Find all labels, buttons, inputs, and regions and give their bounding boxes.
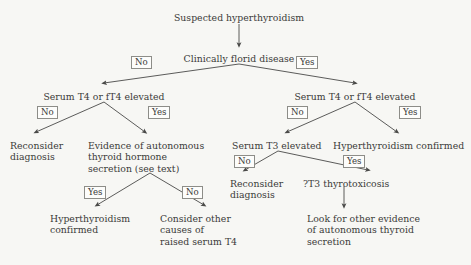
branch-label-t3-yes: Yes	[343, 155, 365, 168]
node-t3-thyrotoxicosis: ?T3 thyrotoxicosis	[303, 178, 389, 189]
branch-label-t4right-yes: Yes	[399, 106, 421, 119]
branch-label-florid-yes: Yes	[296, 56, 318, 69]
branch-label-florid-no: No	[131, 56, 152, 69]
node-hyper-confirmed-right-line-0: Hyperthyroidism confirmed	[333, 140, 464, 151]
node-consider-other-line-1: causes of	[160, 224, 237, 235]
node-t4-left: Serum T4 or fT4 elevated	[43, 91, 164, 102]
node-consider-other-line-2: raised serum T4	[160, 236, 237, 247]
node-t3-elevated: Serum T3 elevated	[232, 140, 321, 151]
node-look-for-evidence-line-2: secretion	[307, 236, 420, 247]
node-reconsider-right-line-0: Reconsider	[230, 178, 283, 189]
node-consider-other-line-0: Consider other	[160, 213, 237, 224]
branch-label-t4left-yes: Yes	[148, 106, 170, 119]
node-hyper-confirmed-right: Hyperthyroidism confirmed	[333, 140, 464, 151]
node-look-for-evidence: Look for other evidenceof autonomous thy…	[307, 213, 420, 247]
node-hyper-confirmed-left-line-1: confirmed	[50, 224, 130, 235]
node-t3-elevated-line-0: Serum T3 elevated	[232, 140, 321, 151]
node-hyper-confirmed-left-line-0: Hyperthyroidism	[50, 213, 130, 224]
connector-t4left-to-evidence	[104, 102, 145, 132]
connector-t4right-to-confirmed	[355, 102, 397, 132]
branch-label-t4left-no: No	[37, 106, 58, 119]
node-reconsider-left-line-1: diagnosis	[10, 151, 63, 162]
node-reconsider-right: Reconsiderdiagnosis	[230, 178, 283, 201]
node-look-for-evidence-line-1: of autonomous thyroid	[307, 224, 420, 235]
branch-label-evidence-no: No	[182, 186, 203, 199]
branch-label-t4right-no: No	[287, 106, 308, 119]
node-t4-right-line-0: Serum T4 or fT4 elevated	[294, 91, 415, 102]
node-evidence-autonomous: Evidence of autonomousthyroid hormonesec…	[88, 140, 204, 174]
hyperthyroidism-flowchart: Suspected hyperthyroidismClinically flor…	[0, 0, 471, 265]
node-evidence-autonomous-line-0: Evidence of autonomous	[88, 140, 204, 151]
node-consider-other: Consider othercauses ofraised serum T4	[160, 213, 237, 247]
node-reconsider-right-line-1: diagnosis	[230, 189, 283, 200]
node-t3-thyrotoxicosis-line-0: ?T3 thyrotoxicosis	[303, 178, 389, 189]
node-florid-line-0: Clinically florid disease	[184, 53, 295, 64]
node-florid: Clinically florid disease	[184, 53, 295, 64]
node-t4-left-line-0: Serum T4 or fT4 elevated	[43, 91, 164, 102]
node-root-line-0: Suspected hyperthyroidism	[174, 12, 304, 23]
branch-label-t3-no: No	[234, 155, 255, 168]
connector-florid-to-t4left	[104, 64, 239, 83]
node-root: Suspected hyperthyroidism	[174, 12, 304, 23]
node-reconsider-left-line-0: Reconsider	[10, 140, 63, 151]
node-t4-right: Serum T4 or fT4 elevated	[294, 91, 415, 102]
node-evidence-autonomous-line-2: secretion (see text)	[88, 163, 204, 174]
node-look-for-evidence-line-0: Look for other evidence	[307, 213, 420, 224]
node-reconsider-left: Reconsiderdiagnosis	[10, 140, 63, 163]
node-evidence-autonomous-line-1: thyroid hormone	[88, 151, 204, 162]
node-hyper-confirmed-left: Hyperthyroidismconfirmed	[50, 213, 130, 236]
branch-label-evidence-yes: Yes	[84, 186, 106, 199]
